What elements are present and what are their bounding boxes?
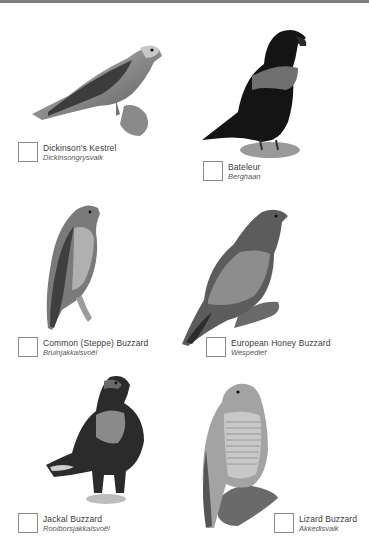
checkbox-steppe-buzzard[interactable] [18,337,38,357]
bird-entry-honey-buzzard: European Honey Buzzard Wespedief [206,337,331,358]
bird-afrikaans-name: Berghaan [228,172,261,182]
bird-name: Lizard Buzzard [299,514,357,524]
bird-name: Dickinson's Kestrel [43,143,116,153]
bird-afrikaans-name: Rooiborsjakkalsvoël [43,524,110,534]
bird-entry-jackal-buzzard: Jackal Buzzard Rooiborsjakkalsvoël [18,513,110,534]
bateleur-illustration-icon [198,24,310,158]
kestrel-illustration-icon [28,36,164,140]
jackal-buzzard-illustration-icon [44,371,148,505]
checkbox-honey-buzzard[interactable] [206,337,226,357]
bird-afrikaans-name: Akkedisvalk [299,524,357,534]
bird-name: European Honey Buzzard [231,338,331,348]
lizard-buzzard-illustration-icon [198,380,280,530]
checkbox-jackal-buzzard[interactable] [18,513,38,533]
checkbox-dickinsons-kestrel[interactable] [18,142,38,162]
bird-entry-bateleur: Bateleur Berghaan [203,161,261,182]
steppe-buzzard-illustration-icon [40,198,102,332]
bird-afrikaans-name: Dickinsongrysvalk [43,153,116,163]
bird-entry-lizard-buzzard: Lizard Buzzard Akkedisvalk [274,513,357,534]
checkbox-lizard-buzzard[interactable] [274,513,294,533]
honey-buzzard-illustration-icon [178,204,292,346]
bird-name: Jackal Buzzard [43,514,110,524]
bird-afrikaans-name: Bruinjakkalsvoël [43,348,148,358]
checkbox-bateleur[interactable] [203,161,223,181]
bird-entry-dickinsons-kestrel: Dickinson's Kestrel Dickinsongrysvalk [18,142,116,163]
bird-name: Common (Steppe) Buzzard [43,338,148,348]
bird-entry-steppe-buzzard: Common (Steppe) Buzzard Bruinjakkalsvoël [18,337,148,358]
top-divider [0,0,369,3]
bird-name: Bateleur [228,162,261,172]
bird-afrikaans-name: Wespedief [231,348,331,358]
